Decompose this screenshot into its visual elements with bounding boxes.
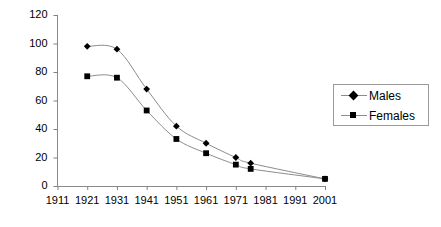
- y-tick-label: 120: [22, 8, 48, 20]
- series-markers: [84, 43, 329, 182]
- legend-marker-diamond-icon: [339, 89, 369, 103]
- y-tick-label: 80: [22, 65, 48, 77]
- data-point-males-1961: [203, 140, 210, 147]
- data-point-males-1976: [247, 160, 254, 167]
- legend-item-females: Females: [334, 105, 430, 126]
- legend-label-males: Males: [369, 89, 401, 103]
- data-point-females-2001: [322, 176, 328, 182]
- data-point-females-1961: [203, 150, 209, 156]
- y-tick-label: 20: [22, 151, 48, 163]
- line-chart: 020406080100120 191119211931194119511961…: [0, 0, 441, 227]
- series-line-males: [87, 45, 325, 179]
- series-lines: [87, 45, 325, 179]
- data-point-males-1971: [232, 154, 239, 161]
- legend-item-males: Males: [334, 85, 430, 106]
- y-tick-label: 100: [22, 37, 48, 49]
- data-point-females-1941: [144, 108, 150, 114]
- data-point-males-1921: [84, 43, 91, 50]
- y-axis-ticks: [54, 16, 58, 187]
- series-line-females: [87, 75, 325, 179]
- legend-label-females: Females: [369, 109, 415, 123]
- data-point-females-1971: [233, 162, 239, 168]
- y-tick-label: 60: [22, 94, 48, 106]
- x-tick-label: 2001: [305, 194, 345, 206]
- data-point-females-1951: [173, 136, 179, 142]
- y-tick-label: 40: [22, 122, 48, 134]
- legend-marker-square-icon: [339, 109, 369, 123]
- data-point-females-1921: [84, 73, 90, 79]
- data-point-females-1976: [248, 166, 254, 172]
- data-point-females-1931: [114, 75, 120, 81]
- y-tick-label: 0: [22, 179, 48, 191]
- chart-legend: Males Females: [333, 84, 429, 126]
